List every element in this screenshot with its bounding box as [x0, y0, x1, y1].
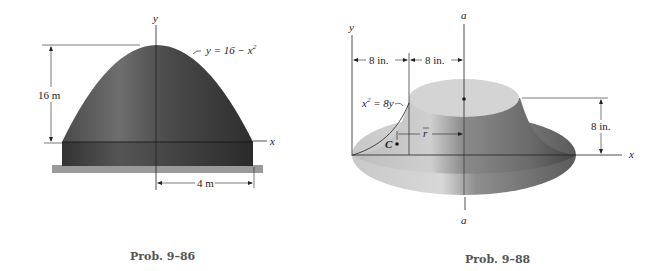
dim-right-label: 8 in.	[425, 54, 445, 66]
y-axis-label: y	[152, 12, 158, 24]
height-dim-label: 8 in.	[591, 120, 611, 132]
equation-label: x2 = 8y	[361, 96, 394, 109]
parabolic-dome	[62, 45, 253, 142]
a-axis-bottom-label: a	[461, 214, 467, 226]
equation-leader	[193, 51, 201, 54]
centroid-label: C	[385, 138, 393, 150]
caption-prob-9-88: Prob. 9–88	[465, 253, 531, 266]
x-axis-label: x	[269, 135, 275, 147]
equation-label: y = 16 − x2	[205, 43, 257, 56]
x-axis-label: x	[628, 148, 634, 160]
dim-left-label: 8 in.	[369, 54, 389, 66]
a-axis-top-label: a	[461, 9, 467, 21]
radius-dim-label: 4 m	[197, 177, 214, 189]
rbar-label: r	[423, 127, 428, 139]
ground-slab	[52, 165, 263, 173]
height-dim-label: 16 m	[38, 89, 61, 101]
base-band	[62, 142, 253, 166]
caption-prob-9-86: Prob. 9–86	[130, 250, 196, 263]
y-axis-label: y	[348, 21, 354, 33]
diagram-canvas: y x y = 16 − x2 16 m 4 m Prob. 9–86	[0, 0, 669, 271]
figure-prob-9-86: y x y = 16 − x2 16 m 4 m Prob. 9–86	[38, 12, 275, 263]
equation-leader	[395, 103, 403, 106]
centroid-point	[395, 142, 399, 146]
figure-prob-9-88: y x a a 8 in. 8 in. x2 = 8y r C	[348, 9, 634, 266]
